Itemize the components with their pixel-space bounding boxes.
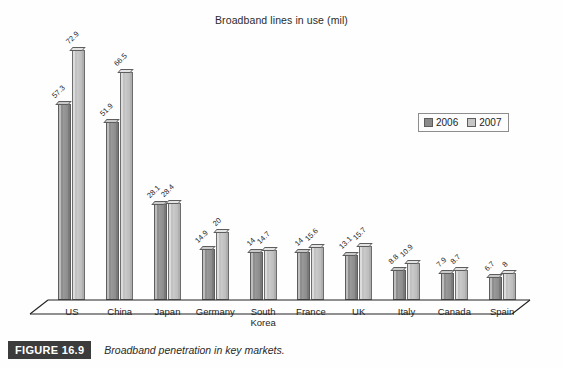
bar-rect: 51.9	[106, 122, 119, 300]
bar-group: 8.810.9	[383, 26, 431, 300]
bar-face	[264, 250, 277, 300]
bar-group: 14.920	[191, 26, 239, 300]
bar-rect: 20	[216, 232, 229, 301]
bar-face	[202, 249, 215, 300]
category-label-line: US	[48, 306, 96, 317]
bar-2007: 15.6	[311, 26, 324, 300]
category-label: China	[96, 306, 144, 317]
bar-face	[441, 273, 454, 300]
bar-2007: 14.7	[264, 26, 277, 300]
bar-rect: 6.7	[489, 277, 502, 300]
legend-swatch-2007	[467, 118, 476, 127]
category-label: Spain	[478, 306, 526, 317]
bar-2006: 6.7	[489, 26, 502, 300]
plot-area: 57.372.951.966.528.128.414.9201414.71415…	[48, 26, 526, 300]
bar-2007: 72.9	[72, 26, 85, 300]
bar-rect: 57.3	[58, 104, 71, 300]
legend-swatch-2006	[424, 118, 433, 127]
bar-2006: 13.1	[345, 26, 358, 300]
bar-face	[72, 50, 85, 300]
bar-value-label: 8	[500, 259, 509, 268]
bar-rect: 14	[250, 252, 263, 300]
category-label: France	[287, 306, 335, 317]
category-label-line: China	[96, 306, 144, 317]
bar-face	[154, 204, 167, 300]
bar-rect: 8	[503, 273, 516, 300]
bar-face	[345, 255, 358, 300]
bar-face	[503, 273, 516, 300]
category-label-line: Canada	[430, 306, 478, 317]
bar-face	[58, 104, 71, 300]
category-label: US	[48, 306, 96, 317]
figure-container: Broadband lines in use (mil) 57.372.951.…	[0, 0, 563, 368]
bar-face	[455, 270, 468, 300]
bar-2007: 66.5	[120, 26, 133, 300]
category-label-line: France	[287, 306, 335, 317]
bar-rect: 8.7	[455, 270, 468, 300]
legend-label-2007: 2007	[479, 117, 501, 128]
bar-top-cap	[500, 270, 517, 274]
bar-top-cap	[213, 229, 230, 233]
category-label: Japan	[144, 306, 192, 317]
category-label: Italy	[383, 306, 431, 317]
bar-rect: 10.9	[407, 263, 420, 300]
bar-value-label: 7.9	[435, 255, 449, 269]
bar-2006: 14	[297, 26, 310, 300]
bar-2006: 14.9	[202, 26, 215, 300]
bar-group: 1414.7	[239, 26, 287, 300]
legend-item-2006: 2006	[424, 117, 458, 128]
bar-2007: 20	[216, 26, 229, 300]
bar-group: 57.372.9	[48, 26, 96, 300]
bar-face	[407, 263, 420, 300]
category-axis-labels: USChinaJapanGermanySouthKoreaFranceUKIta…	[48, 306, 526, 334]
bar-rect: 14	[297, 252, 310, 300]
figure-caption: FIGURE 16.9 Broadband penetration in key…	[0, 332, 563, 368]
bar-face	[359, 246, 372, 300]
category-label-line: UK	[335, 306, 383, 317]
bar-2006: 57.3	[58, 26, 71, 300]
bar-group: 7.98.7	[430, 26, 478, 300]
bar-rect: 8.8	[393, 270, 406, 300]
bar-rect: 14.9	[202, 249, 215, 300]
bar-2007: 8.7	[455, 26, 468, 300]
bar-face	[120, 72, 133, 300]
bar-value-label: 13.1	[337, 234, 354, 251]
bar-rect: 13.1	[345, 255, 358, 300]
category-label: SouthKorea	[239, 306, 287, 328]
category-label: UK	[335, 306, 383, 317]
category-label-line: Japan	[144, 306, 192, 317]
bar-face	[106, 122, 119, 300]
legend-item-2007: 2007	[467, 117, 501, 128]
bar-2007: 8	[503, 26, 516, 300]
chart-title: Broadband lines in use (mil)	[0, 14, 563, 26]
bar-face	[297, 252, 310, 300]
bar-rect: 28.4	[168, 203, 181, 300]
figure-caption-text: Broadband penetration in key markets.	[104, 344, 284, 356]
bar-group: 28.128.4	[144, 26, 192, 300]
bar-rect: 28.1	[154, 204, 167, 300]
bar-group: 6.78	[478, 26, 526, 300]
bar-rect: 7.9	[441, 273, 454, 300]
category-label-line: Italy	[383, 306, 431, 317]
bar-2006: 14	[250, 26, 263, 300]
category-label-line: South	[239, 306, 287, 317]
bar-rect: 14.7	[264, 250, 277, 300]
bar-chart: Broadband lines in use (mil) 57.372.951.…	[0, 0, 563, 332]
bar-face	[393, 270, 406, 300]
bar-group: 13.115.7	[335, 26, 383, 300]
chart-legend: 2006 2007	[418, 113, 509, 132]
category-label-line: Germany	[191, 306, 239, 317]
category-label-line: Korea	[239, 317, 287, 328]
bar-face	[489, 277, 502, 300]
category-label: Canada	[430, 306, 478, 317]
bar-rect: 15.7	[359, 246, 372, 300]
bar-face	[311, 247, 324, 300]
bar-face	[168, 203, 181, 300]
bar-2007: 28.4	[168, 26, 181, 300]
bar-rect: 66.5	[120, 72, 133, 300]
category-label: Germany	[191, 306, 239, 317]
bar-rect: 15.6	[311, 247, 324, 300]
bar-value-label: 57.3	[50, 83, 67, 100]
legend-label-2006: 2006	[436, 117, 458, 128]
bar-value-label: 14	[293, 236, 305, 248]
